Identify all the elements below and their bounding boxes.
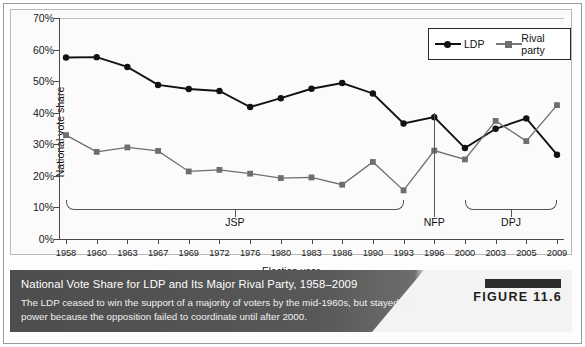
- data-point-circle: [400, 120, 406, 126]
- legend-label-rival: Rival party: [521, 32, 563, 56]
- data-point-square: [370, 159, 376, 165]
- legend-item-ldp: LDP: [435, 38, 484, 50]
- x-tick-label: 1972: [209, 248, 229, 258]
- data-point-square: [493, 118, 499, 124]
- legend-label-ldp: LDP: [464, 38, 484, 50]
- y-tick-label: 20%: [33, 170, 54, 182]
- x-tick-label: 2000: [455, 248, 475, 258]
- y-tick-label: 30%: [33, 138, 54, 150]
- data-point-square: [63, 132, 69, 138]
- x-tick-label: 1993: [393, 248, 413, 258]
- x-tick-label: 1958: [56, 248, 76, 258]
- data-point-square: [247, 171, 253, 177]
- x-tick-label: 1990: [363, 248, 383, 258]
- x-tick-label: 2003: [485, 248, 505, 258]
- x-tick-label: 1983: [301, 248, 321, 258]
- data-point-circle: [523, 115, 529, 121]
- data-point-circle: [186, 86, 192, 92]
- data-point-square: [523, 138, 529, 144]
- data-point-square: [124, 145, 130, 151]
- y-tick-label: 60%: [33, 44, 54, 56]
- bracket-jsp: [66, 200, 404, 210]
- figure-caption-body: The LDP ceased to win the support of a m…: [21, 296, 421, 323]
- series-line: [66, 57, 557, 155]
- x-tick-label: 1969: [179, 248, 199, 258]
- x-tick-label: 2005: [516, 248, 536, 258]
- data-point-circle: [462, 145, 468, 151]
- x-tick-label: 1980: [271, 248, 291, 258]
- data-point-circle: [554, 152, 560, 158]
- data-point-square: [186, 169, 192, 175]
- figure-caption-title: National Vote Share for LDP and Its Majo…: [21, 278, 357, 290]
- bracket-dpj: [465, 200, 557, 210]
- legend-marker-circle-icon: [435, 39, 461, 49]
- data-point-circle: [93, 54, 99, 60]
- data-point-circle: [339, 80, 345, 86]
- data-point-circle: [308, 86, 314, 92]
- data-point-square: [309, 175, 315, 181]
- data-point-square: [94, 149, 100, 155]
- legend-item-rival: Rival party: [496, 32, 563, 56]
- chart-panel: National vote share 0%10%20%30%40%50%60%…: [10, 9, 572, 255]
- annotation-label-nfp: NFP: [424, 216, 445, 228]
- data-point-square: [462, 157, 468, 163]
- figure-page: National vote share 0%10%20%30%40%50%60%…: [0, 0, 585, 347]
- data-point-circle: [155, 82, 161, 88]
- figure-badge-bar: [485, 279, 561, 288]
- series-rival-party: [63, 102, 560, 193]
- data-point-circle: [63, 54, 69, 60]
- chart-legend: LDP Rival party: [428, 28, 571, 60]
- x-tick-label: 1960: [87, 248, 107, 258]
- x-tick-label: 1976: [240, 248, 260, 258]
- y-tick-label: 50%: [33, 75, 54, 87]
- figure-badge-label: FIGURE 11.6: [473, 290, 562, 304]
- data-point-circle: [370, 90, 376, 96]
- data-point-square: [217, 167, 223, 173]
- data-point-circle: [124, 64, 130, 70]
- x-tick-label: 1967: [148, 248, 168, 258]
- data-point-square: [554, 102, 560, 108]
- data-point-square: [401, 187, 407, 193]
- data-point-circle: [492, 126, 498, 132]
- legend-marker-square-icon: [496, 39, 518, 49]
- y-tick-label: 10%: [33, 201, 54, 213]
- series-ldp: [63, 54, 560, 158]
- data-point-square: [339, 182, 345, 188]
- figure-caption-band: National Vote Share for LDP and Its Majo…: [10, 270, 572, 332]
- data-point-circle: [278, 95, 284, 101]
- data-point-square: [155, 148, 161, 154]
- y-tick-label: 70%: [33, 12, 54, 24]
- annotation-label-dpj: DPJ: [501, 216, 521, 228]
- x-tick-label: 1996: [424, 248, 444, 258]
- y-tick-label: 0%: [39, 233, 54, 245]
- data-point-circle: [247, 104, 253, 110]
- y-tick-label: 40%: [33, 107, 54, 119]
- x-tick-label: 2009: [547, 248, 567, 258]
- data-point-circle: [216, 88, 222, 94]
- vline-nfp: [434, 113, 435, 217]
- annotation-label-jsp: JSP: [225, 216, 244, 228]
- x-tick-label: 1963: [117, 248, 137, 258]
- data-point-square: [278, 175, 284, 181]
- x-tick-label: 1986: [332, 248, 352, 258]
